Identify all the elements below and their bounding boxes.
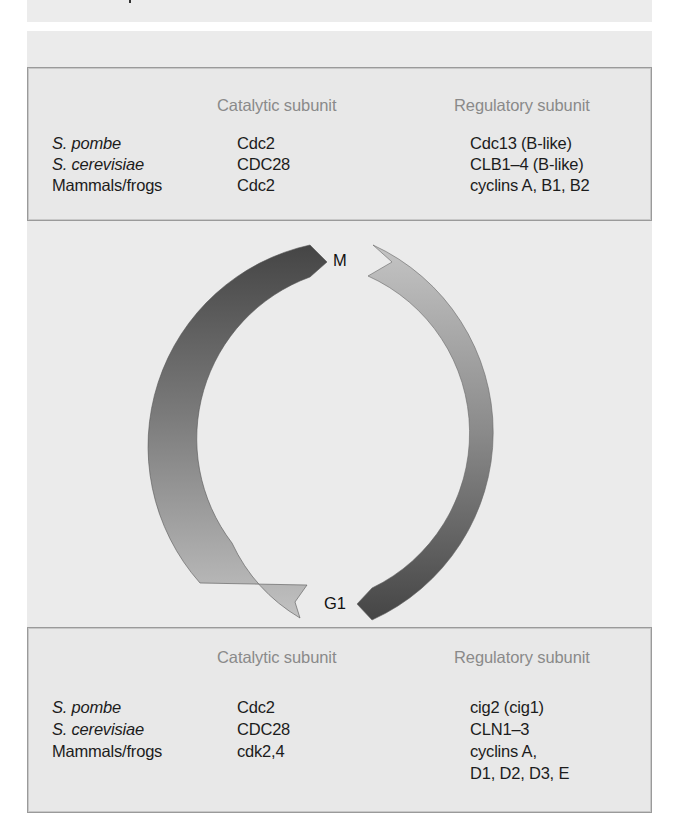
- organism-cell: S. pombe: [52, 697, 121, 718]
- arrow-g1-to-m-icon: [148, 245, 327, 618]
- g1-cdk-table: Catalytic subunit Regulatory subunit S. …: [27, 627, 652, 813]
- header-regulatory-subunit: Regulatory subunit: [454, 648, 590, 667]
- organism-cell: Mammals/frogs: [52, 741, 162, 762]
- organism-cell: S. cerevisiae: [52, 719, 144, 740]
- arrow-m-to-g1-icon: [357, 245, 493, 620]
- phase-label-m: M: [333, 251, 347, 270]
- catalytic-cell: CDC28: [237, 719, 290, 740]
- regulatory-cell: cig2 (cig1): [470, 697, 544, 718]
- catalytic-cell: cdk2,4: [237, 741, 284, 762]
- catalytic-cell: Cdc2: [237, 697, 275, 718]
- regulatory-cell: CLN1–3: [470, 719, 529, 740]
- header-catalytic-subunit: Catalytic subunit: [217, 648, 336, 667]
- regulatory-cell-continued: D1, D2, D3, E: [470, 763, 569, 784]
- regulatory-cell: cyclins A,: [470, 741, 537, 762]
- phase-label-g1: G1: [324, 594, 346, 613]
